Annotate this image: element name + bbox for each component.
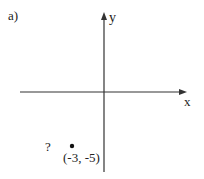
- question-mark: ?: [45, 140, 51, 153]
- point-marker: [70, 144, 74, 148]
- coordinate-plane: [0, 0, 204, 179]
- y-axis-arrow-icon: [101, 12, 107, 20]
- x-axis-label: x: [184, 95, 191, 108]
- point-label: (-3, -5): [63, 151, 100, 164]
- y-axis-label: y: [109, 11, 116, 25]
